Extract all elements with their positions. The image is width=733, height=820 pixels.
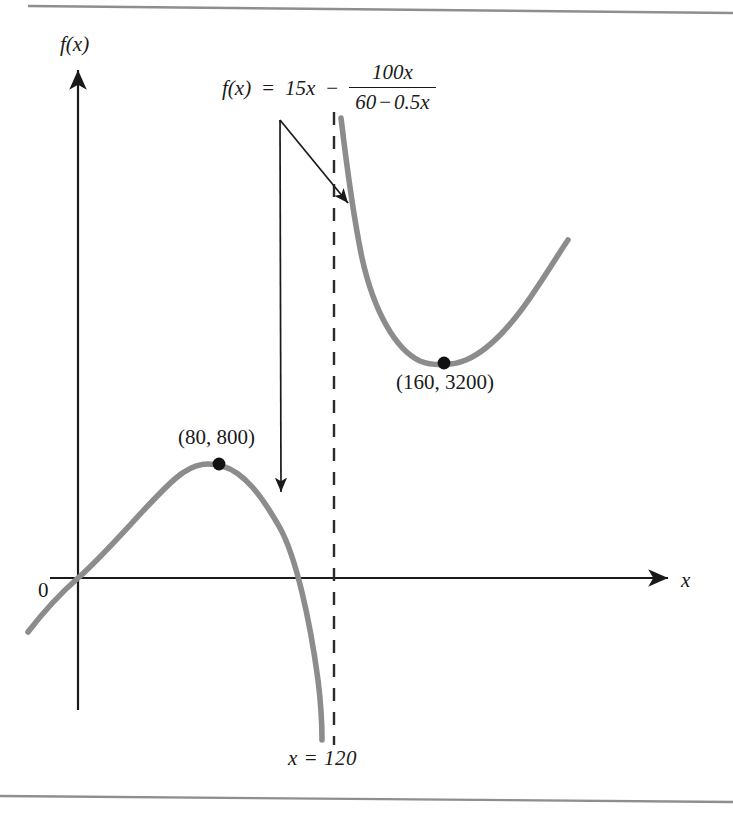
formula-fraction-numerator: 100x [364,61,421,87]
formula-minus: − [324,76,340,101]
leader-lines-layer [0,0,733,820]
local-max-label: (80, 800) [178,427,255,448]
leader-line-diagonal [280,120,348,203]
formula-lhs: f(x) [222,76,251,101]
x-axis-label: x [681,570,690,591]
origin-label: 0 [38,580,49,601]
leader-line-vertical [280,120,281,492]
local-min-label: (160, 3200) [396,372,494,393]
formula-fraction: 100x 60−0.5x [349,61,435,114]
function-formula: f(x) = 15x − 100x 60−0.5x [222,62,436,115]
formula-fraction-denominator: 60−0.5x [349,87,435,115]
asymptote-label: x = 120 [288,748,357,769]
formula-denominator-left: 60 [355,90,376,114]
formula-first-term: 15x [285,76,315,101]
y-axis-label: f(x) [60,34,89,55]
figure-root: f(x) = 15x − 100x 60−0.5x f(x) x 0 (80, … [0,0,733,820]
formula-equals: = [260,76,276,101]
formula-denominator-right: 0.5x [394,90,430,114]
formula-denominator-op: − [376,90,394,114]
